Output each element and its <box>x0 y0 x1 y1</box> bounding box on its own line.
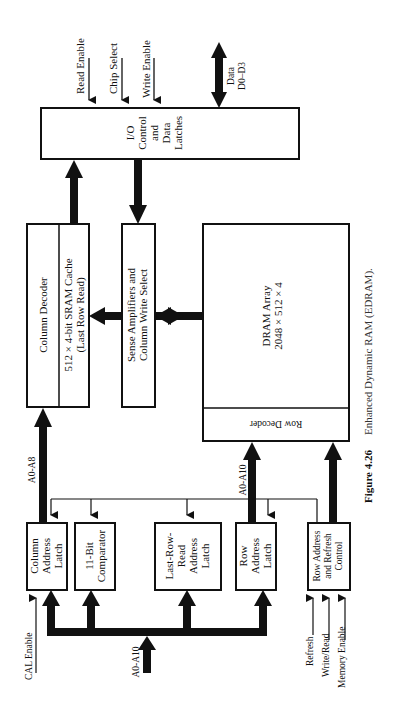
lrr-label-2: Read <box>175 544 187 567</box>
sense-amp-to-cache-arrow <box>89 307 122 325</box>
write-read-signal: Write/Read <box>321 598 331 677</box>
row-refresh-control-block: Row Address and Refresh Control <box>308 523 350 590</box>
refresh-signal: Refresh <box>305 598 315 666</box>
row-address-bus-arrow: A0-A10 <box>238 442 261 523</box>
cal-label-1: Column <box>28 538 40 574</box>
write-read-label: Write/Read <box>321 633 331 677</box>
a0-a8-bus-arrow: A0-A8 <box>27 408 52 523</box>
figure-title: Enhanced Dynamic RAM (EDRAM). <box>362 268 375 435</box>
column-decoder-label: Column Decoder <box>37 277 49 353</box>
refresh-control-arrow <box>324 442 342 523</box>
comparator-block: 11-Bit Comparator <box>75 523 115 590</box>
read-enable-signal: Read Enable <box>74 38 89 100</box>
read-enable-label: Read Enable <box>74 38 86 94</box>
refresh-label: Refresh <box>305 636 315 666</box>
write-enable-signal: Write Enable <box>140 40 154 100</box>
cal-enable-label: CAL Enable <box>24 633 34 680</box>
a0-a8-label: A0-A8 <box>27 457 37 484</box>
io-label-2: Control <box>136 116 148 150</box>
row-decoder-label: Row Decoder <box>249 419 302 429</box>
dram-array-block: DRAM Array 2048 × 512 × 4 Row Decoder <box>203 224 349 441</box>
data-bus-arrow: Data D0–D3 <box>211 42 247 108</box>
io-label-5: Latches <box>172 116 184 150</box>
sense-amps-sublabel: Column Write Select <box>137 269 149 361</box>
figure-caption: Figure 4.26 Enhanced Dynamic RAM (EDRAM)… <box>362 268 375 503</box>
edram-block-diagram: I/O Control and Data Latches Read Enable… <box>0 0 396 722</box>
ral-label-1: Row <box>237 546 249 567</box>
rrc-label-3: Control <box>334 541 344 570</box>
cal-label-3: Latch <box>52 543 64 569</box>
chip-select-signal: Chip Select <box>107 43 122 100</box>
io-label-3: and <box>148 125 160 141</box>
address-input-bus: A0-A10 <box>42 590 272 678</box>
sram-cache-sublabel: (Last Row Read) <box>74 277 87 352</box>
a0-a10-row-label: A0-A10 <box>238 464 248 495</box>
last-row-read-latch-block: Last-Row- Read Address Latch <box>155 523 221 590</box>
rrc-label-2: and Refresh <box>323 533 333 579</box>
sense-amplifiers-block: Sense Amplifiers and Column Write Select <box>122 224 155 407</box>
io-label-1: I/O <box>124 126 136 141</box>
dram-array-size: 2048 × 512 × 4 <box>272 282 284 350</box>
sram-cache-label: 512 × 4-bit SRAM Cache <box>62 258 74 371</box>
ral-label-3: Latch <box>261 543 273 569</box>
memory-enable-signal: Memory Enable <box>337 598 347 688</box>
data-range-label: D0–D3 <box>237 62 247 90</box>
row-address-latch-block: Row Address Latch <box>236 523 276 590</box>
io-label-4: Data <box>160 123 172 144</box>
dram-array-label: DRAM Array <box>260 285 272 346</box>
sense-amps-label: Sense Amplifiers and <box>125 267 137 362</box>
io-control-block: I/O Control and Data Latches <box>41 108 299 159</box>
cal-label-2: Address <box>40 538 52 574</box>
lrr-label-4: Latch <box>199 543 211 569</box>
ral-label-2: Address <box>249 538 261 574</box>
comparator-label-1: 11-Bit <box>83 542 95 570</box>
figure-number: Figure 4.26 <box>362 450 374 503</box>
lrr-label-1: Last-Row- <box>163 532 175 579</box>
rrc-label-1: Row Address <box>312 530 322 581</box>
sense-amp-dram-arrow <box>155 307 203 325</box>
lrr-label-3: Address <box>187 538 199 574</box>
cache-to-io-arrow <box>65 160 83 224</box>
column-address-latch-block: Column Address Latch <box>27 523 67 590</box>
column-decoder-block: Column Decoder 512 × 4-bit SRAM Cache (L… <box>27 224 89 407</box>
memory-enable-label: Memory Enable <box>337 627 347 688</box>
a0-a10-input-label: A0-A10 <box>131 646 141 677</box>
latch-control-lines <box>51 499 317 523</box>
io-to-sense-amp-arrow <box>129 159 147 224</box>
chip-select-label: Chip Select <box>107 43 119 94</box>
data-label: Data <box>226 66 236 85</box>
write-enable-label: Write Enable <box>140 40 152 98</box>
comparator-label-2: Comparator <box>95 529 107 582</box>
cal-enable-signal: CAL Enable <box>24 598 36 680</box>
